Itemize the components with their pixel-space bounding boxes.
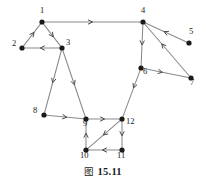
- node-5[interactable]: [186, 40, 191, 45]
- node-label-11: 11: [117, 151, 125, 160]
- node-3[interactable]: [59, 45, 64, 50]
- node-12[interactable]: [119, 116, 124, 121]
- node-8[interactable]: [41, 112, 46, 117]
- figure-container: 123456789101112 图15.11: [0, 0, 206, 187]
- node-4[interactable]: [140, 19, 145, 24]
- node-label-9: 9: [83, 119, 87, 128]
- node-2[interactable]: [19, 45, 24, 50]
- edge-6-to-7: [144, 69, 189, 78]
- edge-2-to-1: [24, 24, 41, 46]
- node-label-8: 8: [33, 106, 37, 115]
- edge-3-to-9: [63, 50, 85, 116]
- edge-3-to-8: [45, 51, 62, 113]
- node-label-2: 2: [12, 39, 16, 48]
- node-label-10: 10: [80, 151, 89, 160]
- edge-1-to-3: [44, 24, 61, 46]
- caption-number: 15.11: [97, 166, 122, 177]
- node-label-6: 6: [143, 67, 147, 76]
- node-label-3: 3: [66, 38, 70, 47]
- arrowheads-layer: [30, 20, 169, 152]
- node-label-5: 5: [189, 27, 193, 36]
- directed-graph-canvas: [0, 0, 206, 187]
- node-1[interactable]: [39, 19, 44, 24]
- node-label-12: 12: [126, 117, 135, 126]
- node-label-1: 1: [40, 6, 44, 15]
- edges-layer: [24, 22, 190, 150]
- figure-caption: 图15.11: [0, 164, 206, 178]
- node-label-7: 7: [190, 78, 194, 87]
- edge-6-to-12: [123, 70, 140, 116]
- caption-mark: 图: [84, 164, 94, 178]
- node-label-4: 4: [141, 6, 145, 15]
